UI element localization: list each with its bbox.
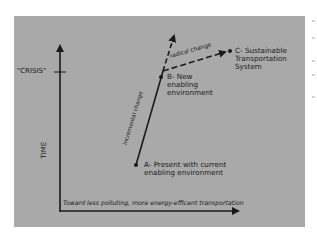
node-b-label-line3: environment	[167, 89, 213, 97]
page-edge-mark	[312, 20, 315, 22]
crisis-label: "CRISIS"	[17, 67, 46, 75]
node-a	[134, 163, 138, 167]
node-a-label: A- Present with current enabling environ…	[144, 161, 226, 177]
node-b	[159, 75, 163, 79]
x-axis-label: Toward less polluting, more energy-effic…	[63, 199, 244, 207]
page-edge-mark	[312, 37, 315, 39]
node-c-label: C- Sustainable Transportation System	[235, 47, 287, 72]
node-c	[228, 49, 232, 53]
node-a-label-line2: enabling environment	[144, 169, 226, 177]
node-b-label: B- New enabling environment	[167, 73, 213, 98]
page-edge-mark	[312, 96, 315, 98]
page-edge-mark	[312, 74, 315, 76]
page-edge-mark	[312, 60, 315, 62]
node-c-label-line3: System	[235, 63, 287, 71]
incremental-change-line	[136, 71, 163, 165]
y-axis-label: TIME	[40, 142, 48, 159]
